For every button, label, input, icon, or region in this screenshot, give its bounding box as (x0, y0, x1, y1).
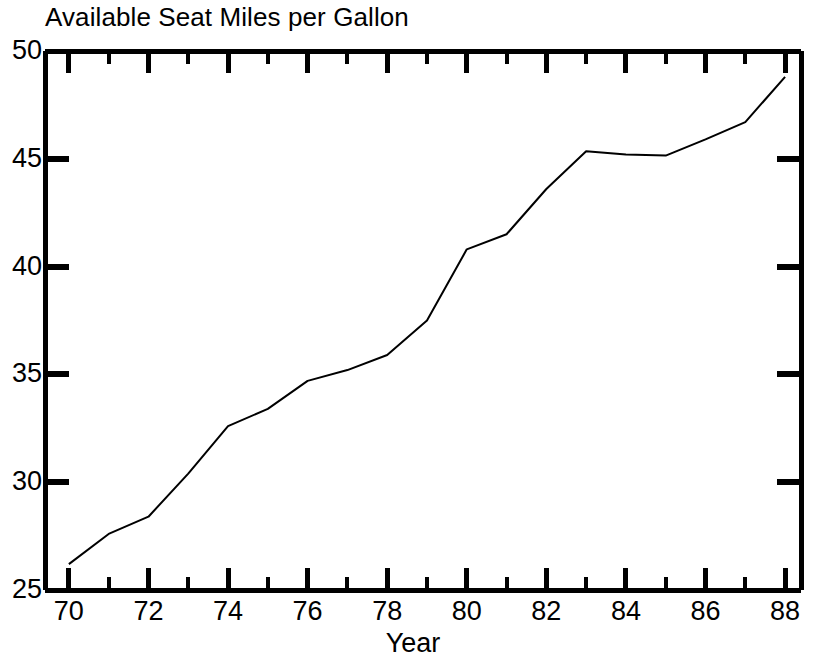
x-tick-label: 82 (516, 598, 576, 625)
x-tick-label: 74 (198, 598, 258, 625)
line-chart-plot (0, 0, 826, 667)
y-axis-ticks (45, 159, 801, 482)
x-tick-label: 80 (437, 598, 497, 625)
plot-frame (45, 51, 801, 590)
series-path (69, 77, 785, 564)
x-tick-label: 78 (357, 598, 417, 625)
y-tick-label: 30 (0, 468, 42, 495)
data-series-line (69, 77, 785, 564)
y-tick-label: 25 (0, 576, 42, 603)
x-tick-label: 76 (278, 598, 338, 625)
x-tick-label: 86 (676, 598, 736, 625)
x-tick-label: 72 (118, 598, 178, 625)
x-tick-label: 88 (755, 598, 815, 625)
x-tick-label: 84 (596, 598, 656, 625)
x-axis-title: Year (0, 628, 826, 659)
chart-canvas: Available Seat Miles per Gallon 25303540… (0, 0, 826, 667)
y-tick-label: 50 (0, 37, 42, 64)
x-tick-label: 70 (39, 598, 99, 625)
y-tick-label: 35 (0, 360, 42, 387)
y-tick-label: 45 (0, 145, 42, 172)
y-tick-label: 40 (0, 253, 42, 280)
